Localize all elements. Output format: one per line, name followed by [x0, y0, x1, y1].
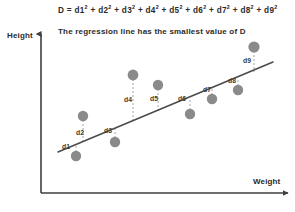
point-label-d1: d1 — [62, 143, 70, 150]
residual-lines-group — [76, 47, 254, 156]
regression-figure: D = d12 + d22 + d32 + d42 + d52 + d62 + … — [0, 0, 295, 212]
point-label-d5: d5 — [150, 95, 158, 102]
point-labels-group: d1d2d3d4d5d6d7d8d9 — [62, 57, 251, 150]
data-point-d7 — [207, 94, 217, 104]
point-label-d3: d3 — [104, 127, 112, 134]
data-point-d3 — [110, 137, 120, 147]
point-label-d2: d2 — [76, 129, 84, 136]
data-point-d6 — [185, 109, 195, 119]
data-point-d4 — [128, 70, 139, 81]
data-point-d1 — [71, 151, 81, 161]
data-point-d5 — [153, 80, 163, 90]
regression-line — [58, 62, 273, 152]
point-label-d4: d4 — [124, 96, 132, 103]
plot-area: d1d2d3d4d5d6d7d8d9 — [0, 0, 295, 212]
data-point-d8 — [233, 85, 243, 95]
data-point-d2 — [78, 111, 88, 121]
point-label-d9: d9 — [243, 57, 251, 64]
data-points-group — [71, 41, 260, 161]
point-label-d6: d6 — [178, 95, 186, 102]
point-label-d8: d8 — [228, 77, 236, 84]
data-point-d9 — [248, 41, 259, 52]
point-label-d7: d7 — [203, 86, 211, 93]
axes — [41, 34, 288, 193]
